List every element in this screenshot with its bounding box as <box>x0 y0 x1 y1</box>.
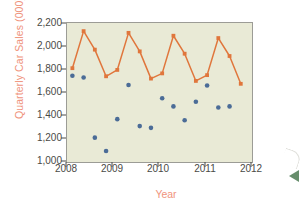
plot-canvas <box>67 23 252 162</box>
data-point-marker <box>228 54 232 58</box>
data-point-marker <box>138 49 142 53</box>
data-point-marker <box>160 96 165 101</box>
corner-swoosh-mark <box>281 148 302 169</box>
y-tick-2200: 2,200 <box>18 18 62 28</box>
data-point-marker <box>183 52 187 56</box>
data-point-marker <box>182 118 187 123</box>
data-point-marker <box>115 117 120 122</box>
data-point-marker <box>81 75 86 80</box>
x-axis-title: Year <box>0 188 302 200</box>
y-tick-1800: 1,800 <box>18 64 62 74</box>
y-tick-2000: 2,000 <box>18 41 62 51</box>
data-point-marker <box>160 71 164 75</box>
data-point-marker <box>149 126 154 131</box>
data-point-marker <box>70 73 75 78</box>
y-tick-1200: 1,200 <box>18 133 62 143</box>
x-tick-2009: 2009 <box>89 163 135 174</box>
data-point-marker <box>171 104 176 109</box>
data-point-marker <box>137 124 142 129</box>
y-tick-1400: 1,400 <box>18 110 62 120</box>
data-point-marker <box>205 83 210 88</box>
data-point-marker <box>227 104 232 109</box>
data-point-marker <box>93 48 97 52</box>
data-point-marker <box>104 74 108 78</box>
series-line-fitted-line <box>72 31 240 84</box>
data-point-marker <box>126 83 131 88</box>
data-point-marker <box>172 34 176 38</box>
data-point-marker <box>127 31 131 35</box>
x-tick-2008: 2008 <box>43 163 89 174</box>
chart-figure: Quarterly Car Sales (000) 2,200 2,000 1,… <box>0 0 302 212</box>
data-point-marker <box>149 77 153 81</box>
left-arrow-mark <box>289 170 299 182</box>
x-tick-2010: 2010 <box>135 163 181 174</box>
x-axis-title-text: Year <box>155 188 176 200</box>
data-point-marker <box>216 36 220 40</box>
data-point-marker <box>93 135 98 140</box>
data-point-marker <box>194 79 198 83</box>
data-point-marker <box>194 99 199 104</box>
data-point-marker <box>205 73 209 77</box>
data-point-marker <box>239 82 243 86</box>
y-tick-1600: 1,600 <box>18 87 62 97</box>
data-point-marker <box>70 66 74 70</box>
plot-area <box>66 22 253 163</box>
y-axis-tick-labels: 2,200 2,000 1,800 1,600 1,400 1,200 1,00… <box>14 0 62 212</box>
data-point-marker <box>216 105 221 110</box>
data-point-marker <box>82 29 86 33</box>
data-point-marker <box>115 68 119 72</box>
data-point-marker <box>104 149 109 154</box>
x-tick-2012: 2012 <box>228 163 274 174</box>
x-tick-2011: 2011 <box>182 163 228 174</box>
